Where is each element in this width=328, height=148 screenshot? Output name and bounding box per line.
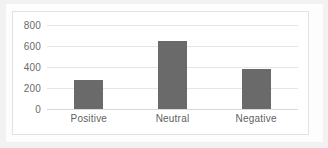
bar-positive bbox=[74, 80, 103, 109]
bar-negative bbox=[242, 69, 271, 109]
bar-series bbox=[47, 25, 298, 109]
y-axis-tick-label: 600 bbox=[24, 41, 41, 52]
y-axis-tick-label: 0 bbox=[35, 104, 41, 115]
y-axis-tick-label: 400 bbox=[24, 62, 41, 73]
bar-neutral bbox=[158, 41, 187, 109]
category-label-neutral: Neutral bbox=[156, 113, 190, 124]
category-label-negative: Negative bbox=[236, 113, 277, 124]
scanned-page: 0200400600800 PositiveNeutralNegative bbox=[0, 0, 328, 148]
page-edge-top bbox=[0, 0, 328, 4]
y-axis-tick-label: 800 bbox=[24, 20, 41, 31]
category-axis: PositiveNeutralNegative bbox=[47, 113, 298, 131]
page-edge-left bbox=[0, 0, 6, 148]
page-edge-right bbox=[323, 0, 328, 148]
gridline-0: 0 bbox=[47, 109, 298, 110]
y-axis-tick-label: 200 bbox=[24, 83, 41, 94]
bar-chart: 0200400600800 PositiveNeutralNegative bbox=[12, 11, 309, 135]
plot-area: 0200400600800 bbox=[47, 25, 298, 109]
category-label-positive: Positive bbox=[71, 113, 108, 124]
page-edge-bottom bbox=[0, 142, 328, 148]
